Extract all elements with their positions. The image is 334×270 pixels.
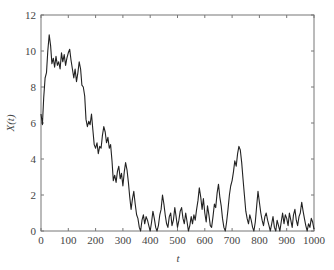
y-axis-label: X(t) — [4, 114, 17, 132]
plot-frame — [41, 15, 314, 231]
data-series-line — [41, 35, 314, 231]
x-tick-label: 200 — [87, 234, 104, 246]
y-tick-label: 0 — [31, 225, 37, 237]
y-tick-label: 10 — [25, 45, 37, 57]
x-axis-label: t — [176, 252, 180, 264]
x-tick-label: 100 — [60, 234, 77, 246]
y-tick-label: 2 — [31, 189, 37, 201]
x-tick-label: 1000 — [303, 234, 326, 246]
x-tick-label: 400 — [142, 234, 159, 246]
y-tick-label: 4 — [31, 153, 37, 165]
x-tick-label: 600 — [197, 234, 214, 246]
x-tick-label: 800 — [251, 234, 268, 246]
x-tick-label: 0 — [38, 234, 44, 246]
x-tick-label: 900 — [278, 234, 295, 246]
y-tick-label: 6 — [31, 117, 37, 129]
x-tick-label: 500 — [169, 234, 186, 246]
line-chart: 01002003004005006007008009001000 0246810… — [0, 0, 334, 270]
y-axis-ticks: 024681012 — [25, 9, 314, 237]
y-tick-label: 12 — [25, 9, 36, 21]
x-tick-label: 300 — [115, 234, 132, 246]
x-tick-label: 700 — [224, 234, 241, 246]
y-tick-label: 8 — [31, 81, 37, 93]
